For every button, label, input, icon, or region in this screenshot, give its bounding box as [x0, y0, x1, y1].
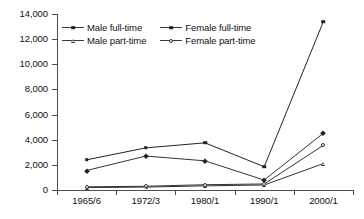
legend-marker-icon — [169, 39, 173, 43]
data-point-marker — [321, 162, 325, 166]
y-tick-label: 6,000 — [25, 110, 48, 120]
legend-swatch — [62, 23, 84, 33]
data-point-marker — [203, 141, 207, 145]
legend-swatch — [62, 36, 84, 46]
legend-label: Female full-time — [185, 22, 251, 33]
data-point-marker — [262, 182, 266, 186]
legend-item[interactable]: Male part-time — [62, 35, 146, 46]
legend-label: Male part-time — [87, 35, 146, 46]
x-tick-label: 2000/1 — [309, 196, 337, 206]
legend-swatch — [160, 23, 182, 33]
line-chart: 02,0004,0006,0008,00010,00012,00014,000 … — [0, 0, 364, 219]
data-point-marker — [85, 185, 89, 189]
legend-label: Female part-time — [185, 35, 255, 46]
data-point-marker — [262, 165, 266, 169]
x-tick — [235, 190, 236, 195]
y-tick-label: 14,000 — [20, 9, 48, 19]
x-axis-line — [57, 190, 354, 191]
y-tick-label: 4,000 — [25, 135, 48, 145]
x-tick — [294, 190, 295, 195]
legend-marker-icon — [71, 39, 75, 43]
x-tick-label: 1990/1 — [250, 196, 278, 206]
data-point-marker — [144, 146, 148, 150]
x-tick-label: 1972/3 — [132, 196, 160, 206]
legend-item[interactable]: Female part-time — [160, 35, 255, 46]
y-tick-label: 10,000 — [20, 59, 48, 69]
x-tick-label: 1965/6 — [72, 196, 100, 206]
legend-label: Male full-time — [87, 22, 142, 33]
data-point-marker — [321, 143, 325, 147]
chart-legend: Male full-timeFemale full-timeMale part-… — [62, 22, 256, 46]
x-tick — [175, 190, 176, 195]
data-point-marker — [85, 158, 89, 162]
x-tick — [353, 190, 354, 195]
data-point-marker — [322, 20, 326, 24]
legend-item[interactable]: Female full-time — [160, 22, 255, 33]
legend-swatch — [160, 36, 182, 46]
data-point-marker — [144, 184, 148, 188]
x-tick-label: 1980/1 — [191, 196, 219, 206]
data-point-marker — [203, 183, 207, 187]
legend-marker-icon — [170, 26, 174, 30]
series-line — [87, 145, 324, 187]
x-tick — [116, 190, 117, 195]
y-tick-label: 8,000 — [25, 84, 48, 94]
y-tick-label: 0 — [43, 185, 48, 195]
x-tick — [57, 190, 58, 195]
y-tick-label: 12,000 — [20, 34, 48, 44]
legend-item[interactable]: Male full-time — [62, 22, 146, 33]
y-tick-label: 2,000 — [25, 160, 48, 170]
legend-marker-icon — [71, 26, 75, 30]
